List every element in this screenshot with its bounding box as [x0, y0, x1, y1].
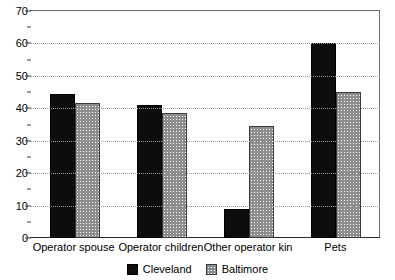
- y-axis-tick-minor: [27, 92, 31, 93]
- bar: [249, 126, 274, 238]
- bar: [137, 105, 162, 238]
- y-axis-tick-minor: [27, 59, 31, 60]
- bar: [336, 92, 361, 238]
- x-tick-label: Other operator kin: [204, 241, 293, 254]
- solid-black-swatch: [127, 264, 138, 275]
- y-axis-tick-minor: [27, 189, 31, 190]
- x-tick-label: Pets: [324, 241, 346, 254]
- bar: [224, 209, 249, 238]
- gridline: [31, 173, 380, 174]
- y-axis-tick-major: [25, 11, 31, 12]
- gridline: [31, 43, 380, 44]
- bar-chart: 010203040506070 Operator spouseOperator …: [0, 0, 395, 280]
- y-axis-tick-minor: [27, 156, 31, 157]
- plot-area: [31, 11, 380, 238]
- x-tick-label: Operator children: [118, 241, 203, 254]
- y-axis-tick-minor: [27, 124, 31, 125]
- checkered-gray-swatch: [206, 264, 217, 275]
- bar: [50, 94, 75, 238]
- legend-item: Cleveland: [127, 263, 192, 275]
- bar: [162, 113, 187, 238]
- legend-label: Cleveland: [143, 263, 192, 275]
- bar: [75, 103, 100, 238]
- y-axis-tick-minor: [27, 27, 31, 28]
- y-axis-tick-major: [25, 238, 31, 239]
- x-axis-labels: Operator spouseOperator childrenOther op…: [30, 241, 380, 257]
- y-axis-tick-minor: [27, 221, 31, 222]
- chart-legend: ClevelandBaltimore: [0, 261, 395, 277]
- legend-item: Baltimore: [206, 263, 268, 275]
- legend-label: Baltimore: [222, 263, 268, 275]
- x-tick-label: Operator spouse: [33, 241, 115, 254]
- gridline: [31, 108, 380, 109]
- y-axis-labels: 010203040506070: [0, 0, 28, 248]
- gridline: [31, 141, 380, 142]
- gridline: [31, 206, 380, 207]
- gridline: [31, 76, 380, 77]
